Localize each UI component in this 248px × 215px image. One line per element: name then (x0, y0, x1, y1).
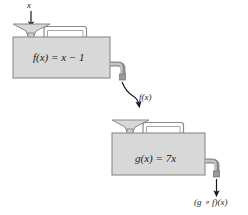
transfer-arrow (122, 82, 139, 105)
machine-g-rule-label: g(x) = 7x (135, 153, 176, 164)
spout-nozzle-2 (214, 171, 220, 177)
input-label: x (27, 1, 31, 10)
handle-inner (48, 31, 84, 38)
machine-g (112, 120, 220, 177)
function-machine-diagram: x f(x) = x − 1 f(x) g(x) = 7x (g ∘ f)(x) (0, 0, 248, 215)
output-label: (g ∘ f)(x) (194, 198, 227, 207)
diagram-graphics (0, 0, 248, 215)
machine-f-rule-label: f(x) = x − 1 (33, 52, 85, 63)
intermediate-label: f(x) (139, 93, 152, 102)
spout-nozzle (120, 74, 126, 80)
handle-icon-2 (143, 123, 184, 134)
handle-icon (44, 27, 87, 38)
handle-inner-2 (147, 127, 181, 134)
